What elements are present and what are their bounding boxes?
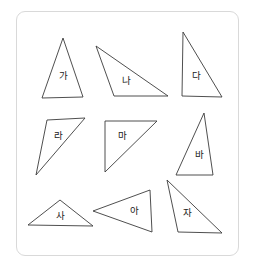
triangle-da[interactable]	[182, 32, 222, 97]
shape-group-a[interactable]: 아	[93, 190, 152, 232]
triangle-ga-label: 가	[59, 70, 68, 81]
triangle-na[interactable]	[96, 46, 168, 96]
shape-group-sa[interactable]: 사	[28, 200, 93, 226]
triangle-ja-label: 자	[183, 207, 192, 218]
triangle-ma-label: 마	[118, 130, 127, 141]
triangle-na-label: 나	[122, 75, 131, 86]
shape-group-ba[interactable]: 바	[176, 113, 213, 175]
triangle-sa-label: 사	[56, 210, 65, 221]
triangle-a[interactable]	[93, 190, 152, 232]
triangle-ga[interactable]	[42, 38, 83, 98]
shape-group-na[interactable]: 나	[96, 46, 168, 96]
shape-canvas: 가 나 다 라 마 바 사 아	[0, 0, 254, 268]
triangles-worksheet: 가 나 다 라 마 바 사 아	[0, 0, 254, 268]
triangle-ba-label: 바	[195, 149, 204, 160]
shape-group-ma[interactable]: 마	[105, 121, 157, 172]
shape-group-ga[interactable]: 가	[42, 38, 83, 98]
triangle-ra[interactable]	[36, 118, 85, 175]
shape-group-da[interactable]: 다	[182, 32, 222, 97]
shape-group-ra[interactable]: 라	[36, 118, 85, 175]
triangle-a-label: 아	[130, 205, 139, 216]
triangle-ra-label: 라	[54, 130, 63, 141]
triangle-da-label: 다	[192, 70, 201, 81]
triangle-ja[interactable]	[167, 180, 222, 233]
triangle-ma[interactable]	[105, 121, 157, 172]
shape-group-ja[interactable]: 자	[167, 180, 222, 233]
triangle-ba[interactable]	[176, 113, 213, 175]
